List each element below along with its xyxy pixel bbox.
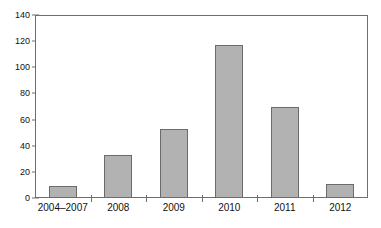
- x-axis-tick-label: 2004–2007: [38, 203, 88, 213]
- bar: [215, 45, 243, 198]
- x-axis-tick-mark: [257, 195, 258, 202]
- x-axis-tick-mark: [313, 195, 314, 202]
- y-axis-tick-label: 20: [0, 167, 30, 176]
- x-axis-tick-mark: [146, 195, 147, 202]
- bar: [160, 129, 188, 198]
- y-axis-tick-label: 80: [0, 89, 30, 98]
- y-axis-tick-label: 140: [0, 11, 30, 20]
- bar: [271, 107, 299, 199]
- bar-chart: 020406080100120140 2004–2007200820092010…: [0, 0, 381, 228]
- x-axis-tick-label: 2009: [163, 203, 185, 213]
- x-axis-tick-label: 2012: [329, 203, 351, 213]
- y-axis-tick-label: 0: [0, 194, 30, 203]
- x-axis-tick-label: 2011: [274, 203, 296, 213]
- x-axis-tick-label: 2010: [218, 203, 240, 213]
- x-axis-tick-mark: [91, 195, 92, 202]
- x-axis-tick-mark: [202, 195, 203, 202]
- x-axis: 2004–200720082009201020112012: [35, 203, 368, 223]
- x-axis-tick-label: 2008: [107, 203, 129, 213]
- y-axis: 020406080100120140: [0, 15, 30, 198]
- y-axis-tick-label: 40: [0, 141, 30, 150]
- bar: [326, 184, 354, 198]
- y-axis-tick-label: 60: [0, 115, 30, 124]
- bar: [104, 155, 132, 198]
- y-axis-tick-label: 120: [0, 37, 30, 46]
- bar: [49, 186, 77, 198]
- bars-group: [35, 15, 368, 198]
- y-axis-tick-label: 100: [0, 63, 30, 72]
